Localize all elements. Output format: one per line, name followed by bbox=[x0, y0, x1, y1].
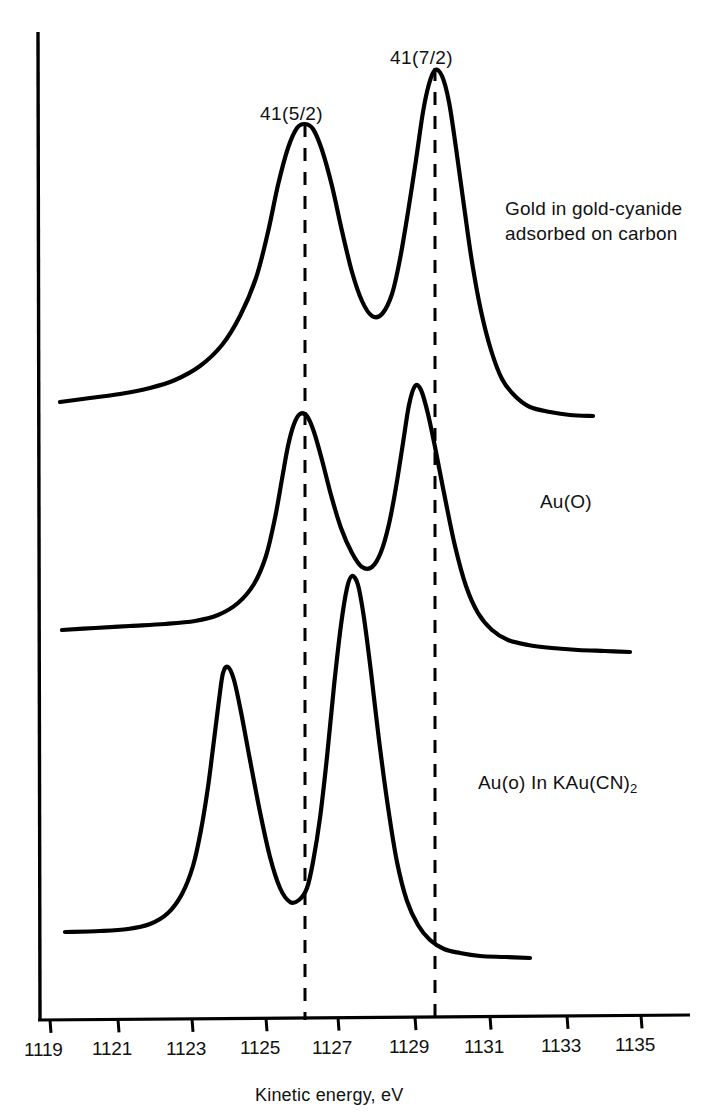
x-axis-tick-label: 1135 bbox=[615, 1034, 655, 1056]
figure-xps-spectra: 41(5/2) 41(7/2) Gold in gold-cyanide ads… bbox=[0, 0, 702, 1119]
guide-lines-group bbox=[305, 68, 435, 1020]
series-label-gold-cyanide-on-carbon: Gold in gold-cyanide adsorbed on carbon bbox=[505, 196, 682, 246]
spectra-plot-svg bbox=[0, 0, 702, 1119]
x-axis-tick bbox=[338, 1018, 339, 1031]
series-label-au-0: Au(O) bbox=[540, 489, 592, 514]
x-axis-tick-label: 1121 bbox=[92, 1038, 132, 1060]
x-axis-tick bbox=[50, 1020, 51, 1033]
x-axis-tick-label: 1123 bbox=[166, 1038, 206, 1060]
spectrum-curve-2 bbox=[65, 576, 530, 958]
y-axis-line bbox=[38, 32, 40, 1020]
series-label-line1: Au(o) In KAu(CN) bbox=[478, 772, 630, 793]
x-axis-tick-label: 1125 bbox=[240, 1037, 280, 1059]
series-label-line2: adsorbed on carbon bbox=[505, 221, 682, 246]
series-label-line1: Au(O) bbox=[540, 489, 592, 514]
x-axis-title: Kinetic energy, eV bbox=[255, 1085, 403, 1106]
spectrum-curve-1 bbox=[62, 385, 630, 652]
x-axis-tick bbox=[490, 1017, 491, 1030]
x-axis-tick-label: 1119 bbox=[24, 1039, 63, 1061]
x-axis-line bbox=[38, 1015, 690, 1020]
x-axis-tick-label: 1127 bbox=[312, 1037, 352, 1059]
x-axis-tick bbox=[266, 1018, 267, 1031]
x-axis-tick-label: 1131 bbox=[464, 1036, 504, 1058]
axis-group bbox=[38, 32, 690, 1020]
series-label-subscript: 2 bbox=[630, 781, 637, 796]
x-axis-tick bbox=[118, 1019, 119, 1032]
x-axis-tick bbox=[192, 1019, 193, 1032]
x-axis-tick-label: 1133 bbox=[541, 1035, 581, 1057]
series-label-line1: Gold in gold-cyanide bbox=[505, 196, 682, 221]
x-axis-tick-label: 1129 bbox=[389, 1036, 429, 1058]
peak-label-4f-7-2: 41(7/2) bbox=[390, 47, 453, 69]
series-label-au-kaucn2: Au(o) In KAu(CN)2 bbox=[478, 770, 638, 801]
x-axis-tick bbox=[567, 1016, 568, 1029]
x-axis-tick bbox=[415, 1017, 416, 1030]
x-axis-tick bbox=[641, 1015, 642, 1028]
peak-label-4f-5-2: 41(5/2) bbox=[260, 103, 323, 125]
